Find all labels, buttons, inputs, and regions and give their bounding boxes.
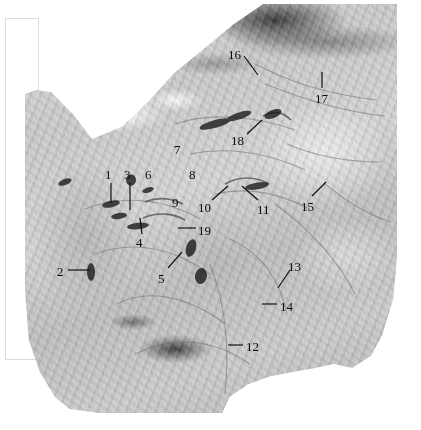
figure-label-3: 3 [124, 168, 131, 181]
label-layer: 12345678910111213141516171819 [0, 0, 421, 430]
figure-label-2: 2 [57, 265, 64, 278]
leader-line-18 [247, 120, 262, 134]
figure-label-12: 12 [246, 340, 259, 353]
figure-label-19: 19 [198, 224, 211, 237]
leader-line-16 [244, 56, 258, 75]
figure-label-11: 11 [257, 203, 270, 216]
figure-label-6: 6 [145, 168, 152, 181]
figure-label-16: 16 [228, 48, 241, 61]
leader-line-10 [212, 186, 228, 200]
figure-label-1: 1 [105, 168, 112, 181]
leader-line-15 [312, 182, 326, 196]
figure-label-8: 8 [189, 168, 196, 181]
figure-label-4: 4 [136, 236, 143, 249]
leader-line-4 [140, 218, 142, 234]
figure-label-17: 17 [315, 92, 328, 105]
figure-label-13: 13 [288, 260, 301, 273]
leader-line-5 [168, 252, 182, 268]
figure-label-15: 15 [301, 200, 314, 213]
figure-label-5: 5 [158, 272, 165, 285]
figure-label-7: 7 [174, 143, 181, 156]
figure-label-10: 10 [198, 201, 211, 214]
figure-label-9: 9 [172, 196, 179, 209]
figure-label-14: 14 [280, 300, 293, 313]
leader-line-11 [242, 186, 258, 200]
figure-label-18: 18 [231, 134, 244, 147]
leader-lines [0, 0, 421, 430]
